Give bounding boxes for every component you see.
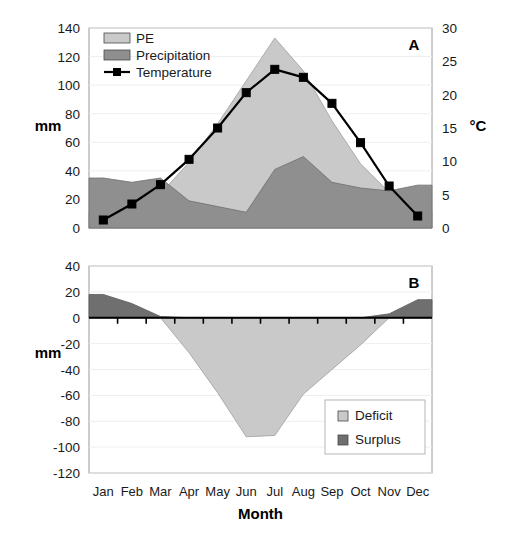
panel-a-temperature-marker bbox=[214, 124, 222, 132]
panel-b-y-tick-label: -80 bbox=[60, 414, 80, 429]
panel-a-y-tick-label: 0 bbox=[72, 221, 80, 236]
panel-b-legend: DeficitSurplus bbox=[325, 400, 425, 454]
panel-a-y2-tick-label: 30 bbox=[442, 21, 457, 36]
panel-b-legend-swatch bbox=[338, 411, 348, 421]
panel-a-y-tick-label: 120 bbox=[57, 50, 80, 65]
chart-canvas: 020406080100120140051015202530mm°CAPEPre… bbox=[0, 0, 506, 540]
x-axis-month-label: Sep bbox=[320, 484, 343, 499]
panel-a-temperature-marker bbox=[185, 155, 193, 163]
panel-b-legend-swatch bbox=[338, 435, 348, 445]
panel-a-y2-tick-label: 0 bbox=[442, 221, 450, 236]
panel-a-temperature-marker bbox=[414, 212, 422, 220]
x-axis-month-label: Jan bbox=[93, 484, 114, 499]
panel-a-y-tick-label: 140 bbox=[57, 21, 80, 36]
panel-a-legend-marker bbox=[113, 68, 121, 76]
panel-a-temperature-marker bbox=[357, 139, 365, 147]
panel-a-temperature-marker bbox=[328, 99, 336, 107]
panel-a-y2-tick-label: 25 bbox=[442, 54, 457, 69]
panel-a-left-axis-title: mm bbox=[35, 117, 62, 134]
panel-a-letter: A bbox=[409, 36, 420, 53]
panel-a: 020406080100120140051015202530mm°CAPEPre… bbox=[35, 21, 487, 236]
panel-a-temperature-marker bbox=[242, 89, 250, 97]
panel-b-y-tick-label: -20 bbox=[60, 337, 80, 352]
panel-a-temperature-marker bbox=[99, 216, 107, 224]
panel-b-left-axis-title: mm bbox=[35, 344, 62, 361]
panel-b-legend-label: Surplus bbox=[355, 432, 401, 447]
panel-a-right-axis-title: °C bbox=[470, 117, 487, 134]
panel-a-y-tick-label: 100 bbox=[57, 78, 80, 93]
x-axis-month-label: Oct bbox=[350, 484, 371, 499]
panel-b-y-tick-label: -100 bbox=[53, 440, 80, 455]
panel-a-y2-tick-label: 10 bbox=[442, 154, 457, 169]
panel-a-y2-tick-label: 20 bbox=[442, 88, 457, 103]
panel-a-temperature-marker bbox=[128, 200, 136, 208]
panel-a-temperature-marker bbox=[299, 73, 307, 81]
panel-b-y-tick-label: -40 bbox=[60, 363, 80, 378]
panel-b-legend-label: Deficit bbox=[355, 408, 393, 423]
panel-a-y2-tick-label: 5 bbox=[442, 188, 450, 203]
panel-a-legend-label: Precipitation bbox=[136, 48, 210, 63]
panel-b-y-tick-label: 40 bbox=[65, 259, 80, 274]
panel-a-y-tick-label: 60 bbox=[65, 135, 80, 150]
panel-b-letter: B bbox=[409, 274, 420, 291]
panel-a-y2-tick-label: 15 bbox=[442, 121, 457, 136]
x-axis-month-label: May bbox=[205, 484, 230, 499]
panel-a-legend-label: PE bbox=[136, 31, 154, 46]
panel-b-y-tick-label: -120 bbox=[53, 466, 80, 481]
x-axis-month-label: Aug bbox=[292, 484, 315, 499]
x-axis-month-label: Jun bbox=[236, 484, 257, 499]
panel-b: 40200-20-40-60-80-100-120mmBDeficitSurpl… bbox=[35, 259, 432, 481]
x-axis-month-label: Jul bbox=[266, 484, 283, 499]
x-axis-month-label: Mar bbox=[149, 484, 172, 499]
x-axis-month-label: Nov bbox=[378, 484, 402, 499]
panel-a-legend-swatch bbox=[104, 50, 130, 60]
panel-b-y-tick-label: 0 bbox=[72, 311, 80, 326]
x-axis-title: Month bbox=[238, 505, 283, 522]
panel-a-legend-label: Temperature bbox=[136, 65, 212, 80]
climate-water-balance-figure: 020406080100120140051015202530mm°CAPEPre… bbox=[0, 0, 506, 540]
panel-a-y-tick-label: 40 bbox=[65, 164, 80, 179]
panel-a-legend-swatch bbox=[104, 33, 130, 43]
panel-a-temperature-marker bbox=[385, 182, 393, 190]
x-axis-month-label: Dec bbox=[406, 484, 430, 499]
panel-a-y-tick-label: 80 bbox=[65, 107, 80, 122]
panel-a-temperature-marker bbox=[271, 65, 279, 73]
x-axis-month-label: Apr bbox=[179, 484, 200, 499]
panel-a-y-tick-label: 20 bbox=[65, 192, 80, 207]
panel-b-y-tick-label: -60 bbox=[60, 388, 80, 403]
panel-b-y-tick-label: 20 bbox=[65, 285, 80, 300]
panel-a-temperature-marker bbox=[156, 181, 164, 189]
x-axis-month-label: Feb bbox=[121, 484, 143, 499]
